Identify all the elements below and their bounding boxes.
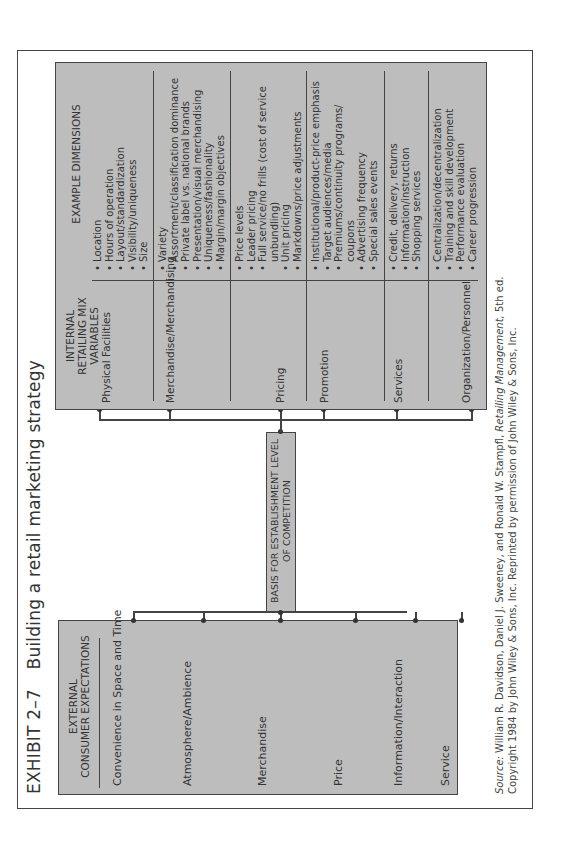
dimension-item: Centralization/decentralization: [432, 66, 444, 271]
dimension-list: Price levels Leader pricing Full service…: [234, 66, 303, 271]
connector-line: [280, 420, 282, 432]
exhibit-title: EXHIBIT 2–7 Building a retail marketing …: [24, 360, 44, 794]
internal-variable: Organization/Personnel: [460, 281, 472, 403]
dimension-list: Credit, delivery, returns Information/in…: [388, 66, 423, 271]
external-header-line2: CONSUMER EXPECTATIONS: [79, 619, 91, 794]
dimension-item: Performance evaluation: [455, 66, 467, 271]
connector-dot: [459, 618, 464, 623]
dimensions-header: EXAMPLE DIMENSIONS: [70, 69, 82, 259]
external-item: Price: [332, 759, 345, 786]
row-divider: [230, 71, 231, 401]
dimension-item: Institutional/product-price emphasis: [310, 66, 322, 271]
connector-dot: [278, 618, 283, 623]
dimension-item: Markdowns/price adjustments: [292, 66, 304, 271]
dimension-item: Location: [92, 66, 104, 271]
external-item: Service: [439, 745, 452, 786]
dimension-item: Layout/standardization: [115, 66, 127, 271]
connector-bracket: [99, 420, 472, 422]
dimension-item: Special sales events: [368, 66, 380, 271]
connector-dot: [413, 618, 418, 623]
source-book-title: Retailing Management,: [494, 315, 505, 431]
internal-variable: Pricing: [274, 368, 286, 403]
external-item: Merchandise: [256, 716, 269, 786]
dimension-item: Visibility/uniqueness: [127, 66, 139, 271]
dimension-list: Institutional/product-price emphasis Tar…: [310, 66, 379, 271]
external-item: Convenience in Space and Time: [111, 610, 124, 786]
external-item: Information/Interaction: [392, 659, 405, 786]
dimension-list: Location Hours of operation Layout/stand…: [92, 66, 150, 271]
external-header: EXTERNAL CONSUMER EXPECTATIONS: [67, 619, 91, 794]
source-line2: Copyright 1984 by John Wiley & Sons, Inc…: [507, 74, 520, 794]
internal-header-line1: INTERNAL: [64, 271, 76, 401]
external-header-line1: EXTERNAL: [67, 619, 79, 794]
source-label: Source:: [494, 756, 505, 794]
dimension-item: Assortment/classification dominance: [169, 66, 181, 271]
dimension-item: Unit pricing: [280, 66, 292, 271]
dimension-item: Training and skill development: [444, 66, 456, 271]
external-header-divider: [99, 638, 100, 788]
dimension-item: Shopping services: [411, 66, 423, 271]
dimension-item: Advertising frequency: [356, 66, 368, 271]
dimension-item: Full service/no frills (cost of service …: [257, 66, 280, 271]
competition-basis-box: BASIS FOR ESTABLISHMENT LEVEL OF COMPETI…: [266, 432, 296, 612]
connector-dot: [278, 610, 283, 615]
external-item: Atmosphere/Ambience: [181, 661, 194, 786]
dimension-item: Target audiences/media: [322, 66, 334, 271]
competition-basis-text: BASIS FOR ESTABLISHMENT LEVEL OF COMPETI…: [269, 431, 293, 611]
dimension-item: Hours of operation: [104, 66, 116, 271]
dimension-item: Private label vs. national brands: [180, 66, 192, 271]
source-line1: Source: William R. Davidson, Daniel J. S…: [494, 74, 507, 794]
rotated-exhibit-page: EXHIBIT 2–7 Building a retail marketing …: [0, 0, 561, 842]
dimension-item: Size: [138, 66, 150, 271]
dimension-item: Presentation/visual merchandising: [192, 66, 204, 271]
dimension-list: Centralization/decentralization Training…: [432, 66, 478, 271]
internal-variable: Services: [392, 359, 404, 403]
column-divider: [92, 280, 478, 281]
connector-dot: [131, 618, 136, 623]
dimension-item: Premiums/continuity programs/ coupons: [333, 66, 356, 271]
row-divider: [428, 71, 429, 401]
source-citation: Source: William R. Davidson, Daniel J. S…: [494, 74, 519, 794]
internal-mix-box: INTERNAL RETAILING MIX VARIABLES EXAMPLE…: [55, 62, 487, 410]
internal-header-line2: RETAILING MIX VARIABLES: [76, 271, 100, 401]
competition-basis-line1: BASIS FOR ESTABLISHMENT LEVEL: [269, 431, 281, 611]
connector-dot: [353, 618, 358, 623]
dimension-item: Margin/margin objectives: [215, 66, 227, 271]
dimension-item: Credit, delivery, returns: [388, 66, 400, 271]
row-divider: [153, 71, 154, 401]
internal-variable: Promotion: [318, 350, 330, 403]
row-divider: [384, 71, 385, 401]
internal-header: INTERNAL RETAILING MIX VARIABLES: [64, 271, 100, 401]
internal-variable: Physical Facilities: [100, 312, 112, 403]
dimension-item: Price levels: [234, 66, 246, 271]
connector-dot: [201, 618, 206, 623]
dimension-item: Variety: [157, 66, 169, 271]
dimension-item: Information/instruction: [400, 66, 412, 271]
dimension-item: Uniqueness/fashionality: [203, 66, 215, 271]
source-authors: William R. Davidson, Daniel J. Sweeney, …: [494, 432, 505, 756]
internal-variable: Merchandise/Merchandising: [164, 256, 176, 403]
competition-basis-line2: OF COMPETITION: [281, 431, 293, 611]
dimension-item: Leader pricing: [246, 66, 258, 271]
external-expectations-box: EXTERNAL CONSUMER EXPECTATIONS Convenien…: [58, 620, 458, 795]
source-edition: 5th ed.: [494, 277, 505, 316]
exhibit-number: EXHIBIT 2–7: [24, 689, 44, 794]
dimension-list: Variety Assortment/classification domina…: [157, 66, 226, 271]
dimension-item: Career progression: [467, 66, 479, 271]
row-divider: [306, 71, 307, 401]
exhibit-title-text: Building a retail marketing strategy: [24, 360, 44, 669]
